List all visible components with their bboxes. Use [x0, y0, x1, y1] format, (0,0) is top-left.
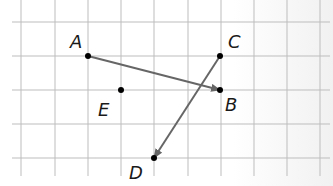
point-E — [118, 87, 124, 93]
point-label-B: B — [225, 94, 237, 115]
vector-CD — [154, 56, 220, 158]
point-label-E: E — [98, 99, 110, 120]
point-label-C: C — [228, 31, 241, 52]
point-D — [151, 155, 157, 161]
point-A — [85, 53, 91, 59]
diagram-canvas: ABCDE — [0, 0, 333, 186]
vector-diagram: ABCDE — [0, 0, 333, 186]
grid-lines — [12, 0, 330, 176]
point-label-A: A — [69, 31, 82, 52]
point-C — [217, 53, 223, 59]
point-label-D: D — [129, 162, 143, 183]
point-B — [217, 87, 223, 93]
